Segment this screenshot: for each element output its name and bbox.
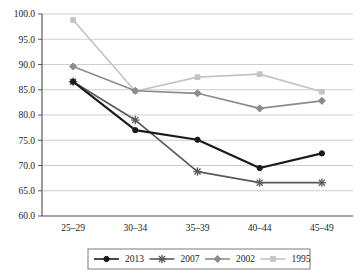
y-tick-label: 80.0 [18,110,35,120]
y-axis-labels: 100.095.090.085.080.075.070.065.060.0 [14,9,36,221]
x-tick-label: 40–44 [248,223,272,233]
marker-2007-30–34 [131,116,139,124]
y-tick-label: 100.0 [14,9,36,19]
series-line-2002 [73,67,322,109]
marker-1995-25–29 [71,18,76,23]
marker-2013-45–49 [319,151,324,156]
marker-2002-45–49 [318,97,325,104]
line-chart: 100.095.090.085.080.075.070.065.060.0 25… [0,0,361,277]
marker-1995-35–39 [195,75,200,80]
marker-2007-40–44 [256,178,264,186]
x-axis-labels: 25–2930–3435–3940–4445–49 [61,223,334,233]
marker-2002-25–29 [70,63,77,70]
y-tick-label: 60.0 [18,211,35,221]
chart-canvas: 100.095.090.085.080.075.070.065.060.0 25… [0,0,361,277]
legend-label-1995: 1995 [292,254,311,264]
marker-2007-35–39 [193,167,201,175]
y-tick-label: 85.0 [18,85,35,95]
y-tick-label: 75.0 [18,136,35,146]
legend-marker-circle-icon [104,256,109,261]
x-tick-label: 30–34 [123,223,147,233]
marker-2013-30–34 [133,128,138,133]
chart-legend: 2013200720021995 [88,249,311,269]
y-tick-label: 90.0 [18,60,35,70]
x-tick-label: 25–29 [61,223,85,233]
legend-marker-asterisk-icon [158,255,166,263]
y-tick-label: 95.0 [18,35,35,45]
legend-marker-square-icon [271,257,276,262]
y-tick-label: 70.0 [18,161,35,171]
marker-2002-35–39 [194,90,201,97]
legend-label-2002: 2002 [236,254,255,264]
marker-2013-40–44 [257,165,262,170]
x-tick-label: 35–39 [186,223,210,233]
legend-label-2007: 2007 [181,254,200,264]
marker-1995-45–49 [320,89,325,94]
legend-label-2013: 2013 [125,254,144,264]
marker-2013-35–39 [195,137,200,142]
series-1995 [71,18,324,94]
data-series-group [69,18,326,187]
marker-2002-40–44 [256,105,263,112]
marker-2013-25–29 [70,79,75,84]
y-axis-tickmarks [38,14,42,216]
series-2002 [70,63,326,112]
marker-1995-40–44 [257,72,262,77]
x-tick-label: 45–49 [310,223,334,233]
y-tick-label: 65.0 [18,186,35,196]
marker-2007-45–49 [318,178,326,186]
